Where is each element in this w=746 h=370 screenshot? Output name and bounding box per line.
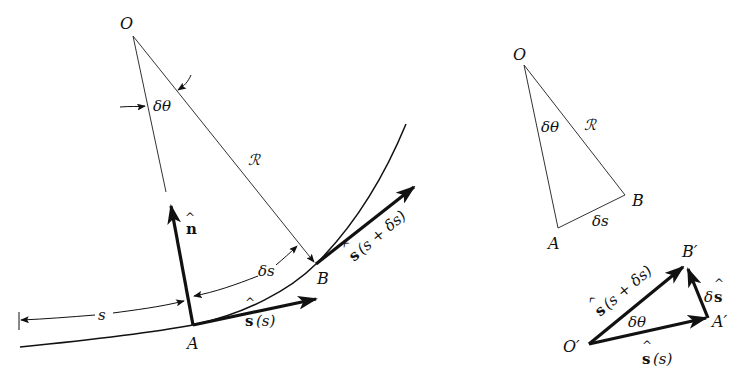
s-hat-plus-bottom-arg: (s + δs) — [599, 262, 655, 313]
label-B-prime: B′ — [681, 242, 698, 261]
label-n-hat: n — [186, 220, 197, 238]
trajectory-curve — [20, 124, 406, 347]
diagram-svg: O δθ ℛ δs s A B ^ n ^ s (s) ^ s (s + δs)… — [0, 0, 746, 370]
label-s-hat-s-bottom: ^ s (s) — [642, 339, 673, 368]
left-figure: O δθ ℛ δs s A B ^ n ^ s (s) ^ s (s + δs) — [19, 14, 414, 353]
angle-marker-right — [178, 75, 191, 90]
triangle-OAB — [524, 65, 625, 228]
label-s-hat-s-plus-ds: ^ s (s + δs) — [339, 200, 410, 265]
label-delta-s: δs — [258, 262, 275, 280]
label-delta-theta: δθ — [153, 97, 171, 115]
label-O-top: O — [513, 45, 526, 64]
right-bottom-vector-triangle: O′ A′ B′ δθ ^ s (s) ^ s (s + δs) δ ^ s — [563, 242, 728, 368]
angle-marker-left — [120, 106, 145, 107]
label-delta-s-hat: δ ^ s — [704, 277, 724, 306]
s-dimension-right — [113, 301, 184, 313]
right-top-triangle: O δθ ℛ B δs A — [513, 45, 644, 253]
label-O-prime: O′ — [563, 337, 580, 356]
s-hat-bottom-arg: (s) — [653, 350, 673, 368]
label-s-hat-s: ^ s (s) — [245, 296, 276, 330]
s-hat-caret: ^ — [245, 296, 255, 310]
label-O: O — [120, 14, 133, 33]
ds-dimension-left — [194, 276, 258, 296]
s-hat-bottom-text: s — [642, 350, 650, 368]
label-delta-theta-bottom: δθ — [628, 313, 646, 331]
label-B-top: B — [631, 191, 644, 210]
label-R-top: ℛ — [584, 116, 597, 134]
label-s: s — [98, 306, 106, 324]
delta-s-hat-delta: δ — [704, 288, 713, 306]
s-dimension-left — [21, 315, 95, 320]
label-A-top: A — [546, 234, 560, 253]
label-delta-s-top: δs — [592, 212, 609, 230]
s-hat-s-arg: (s) — [256, 312, 276, 330]
curvature-diagram: O δθ ℛ δs s A B ^ n ^ s (s) ^ s (s + δs)… — [0, 0, 746, 370]
ds-dimension-right — [276, 246, 297, 265]
label-delta-theta-top: δθ — [541, 118, 559, 136]
label-s-hat-s-plus-ds-bottom: ^ s (s + δs) — [585, 255, 656, 320]
label-R: ℛ — [248, 151, 261, 169]
label-B: B — [316, 269, 329, 288]
delta-s-hat-s: s — [714, 288, 722, 306]
radius-line-OB — [133, 36, 314, 262]
label-A-prime: A′ — [710, 312, 728, 331]
label-A: A — [185, 334, 199, 353]
s-hat-s-text: s — [245, 312, 253, 330]
